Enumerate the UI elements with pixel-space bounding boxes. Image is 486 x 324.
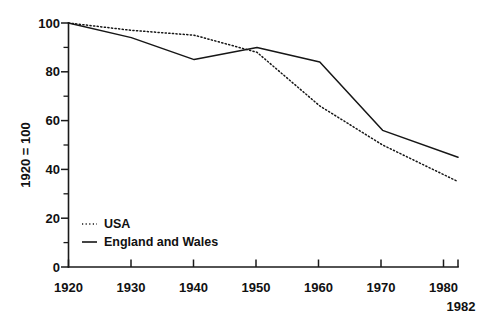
y-tick-label-100: 100 (38, 16, 60, 31)
y-tick-label-80: 80 (46, 64, 60, 79)
x-tick-label-1980: 1980 (429, 280, 458, 295)
x-tick-label-1940: 1940 (179, 280, 208, 295)
x-tick-label-1960: 1960 (304, 280, 333, 295)
x-tick-label-1970: 1970 (367, 280, 396, 295)
y-tick-label-40: 40 (46, 162, 60, 177)
y-axis-title: 1920 = 100 (18, 122, 33, 187)
x-tick-label-1950: 1950 (242, 280, 271, 295)
y-tick-label-20: 20 (46, 211, 60, 226)
y-tick-label-0: 0 (53, 260, 60, 275)
chart-figure: 1920 = 100 100 80 60 40 20 0 (0, 0, 486, 324)
line-chart: 1920 = 100 100 80 60 40 20 0 (0, 0, 486, 324)
x-tick-label-1920: 1920 (54, 280, 83, 295)
legend-label-usa: USA (104, 217, 130, 231)
y-tick-label-60: 60 (46, 113, 60, 128)
legend-label-england-and-wales: England and Wales (104, 235, 218, 249)
x-axis-end-label: 1982 (447, 299, 476, 314)
chart-legend: USA England and Wales (82, 217, 218, 249)
series-usa-line (69, 23, 459, 182)
series-england-and-wales-line (69, 23, 459, 157)
x-tick-label-1930: 1930 (117, 280, 146, 295)
